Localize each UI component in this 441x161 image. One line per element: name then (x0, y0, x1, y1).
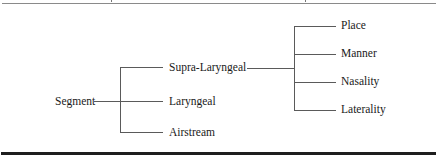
cutoff-glyph-fragment (305, 0, 306, 2)
node-laterality: Laterality (341, 103, 386, 116)
node-nasality: Nasality (341, 75, 379, 88)
edge-to-place (294, 26, 336, 27)
edge-segment-to-laryngeal (94, 101, 163, 102)
edge-to-airstream (120, 132, 163, 133)
bracket-level2 (294, 26, 295, 111)
bottom-rule (1, 152, 436, 155)
edge-to-supra-laryngeal (120, 67, 163, 68)
node-manner: Manner (341, 47, 377, 60)
node-airstream: Airstream (169, 126, 215, 139)
bracket-level1 (120, 67, 121, 133)
edge-supra-laryngeal-out (247, 68, 294, 69)
node-laryngeal: Laryngeal (169, 95, 216, 108)
node-supra-laryngeal: Supra-Laryngeal (169, 61, 246, 74)
cutoff-glyph-fragment (111, 0, 112, 2)
edge-to-laterality (294, 110, 336, 111)
top-rule (2, 3, 436, 4)
node-place: Place (341, 19, 366, 32)
edge-to-manner (294, 54, 336, 55)
edge-to-nasality (294, 82, 336, 83)
node-segment: Segment (55, 95, 95, 108)
